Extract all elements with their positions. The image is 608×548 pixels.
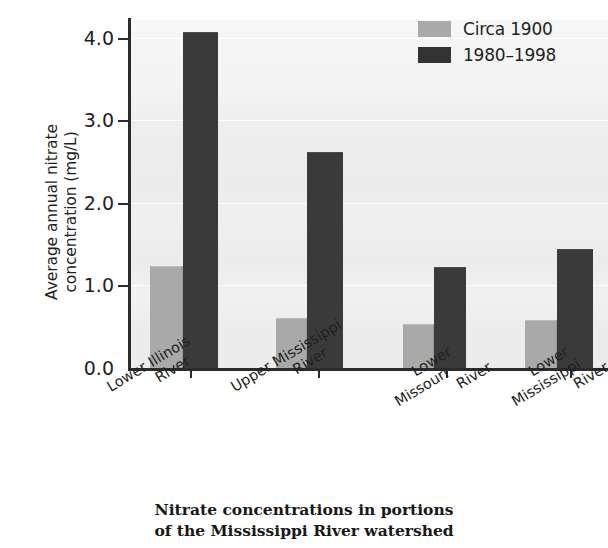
figure-caption: Nitrate concentrations in portions of th… (0, 500, 608, 542)
bar-modern-lower-illinois-river (183, 32, 218, 368)
legend-label-circa-1900: Circa 1900 (463, 19, 553, 39)
legend: Circa 1900 1980–1998 (418, 19, 556, 65)
legend-swatch-icon-circa-1900 (418, 21, 451, 37)
legend-label-1980-1998: 1980–1998 (463, 45, 556, 65)
y-axis-line (128, 18, 131, 370)
y-tick-label-1: 1.0 (52, 274, 114, 296)
y-axis-tick-labels: 4.0 3.0 2.0 1.0 0.0 (0, 0, 116, 548)
y-tick-mark-2 (118, 203, 129, 205)
y-tick-label-2: 2.0 (52, 192, 114, 214)
caption-line-2: of the Mississippi River watershed (0, 521, 608, 542)
y-tick-label-3: 3.0 (52, 109, 114, 131)
legend-item-circa-1900: Circa 1900 (418, 19, 556, 39)
x-tick-mark-1 (190, 369, 192, 378)
y-tick-label-0: 0.0 (52, 357, 114, 379)
y-tick-mark-3 (118, 120, 129, 122)
legend-swatch-icon-1980-1998 (418, 47, 451, 63)
y-tick-label-4: 4.0 (52, 27, 114, 49)
nitrate-bar-chart-figure: Average annual nitrate concentration (mg… (0, 0, 608, 548)
legend-item-1980-1998: 1980–1998 (418, 45, 556, 65)
x-tick-mark-2 (318, 369, 320, 378)
plot-area (130, 20, 608, 368)
caption-line-1: Nitrate concentrations in portions (0, 500, 608, 521)
y-tick-mark-1 (118, 285, 129, 287)
y-tick-mark-4 (118, 38, 129, 40)
